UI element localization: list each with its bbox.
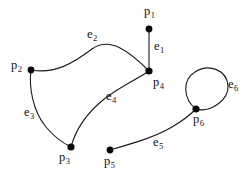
vertex-label-p1-index: 1 <box>151 10 155 20</box>
vertex-label-p2: p2 <box>11 59 22 72</box>
vertex-p4 <box>145 67 152 74</box>
vertex-label-p3: p3 <box>59 151 70 164</box>
edges-layer <box>30 29 228 150</box>
edge-e3 <box>30 70 71 147</box>
edge-label-e6-base: e <box>228 77 234 91</box>
vertex-label-p2-base: p <box>11 58 17 72</box>
vertex-label-p4-index: 4 <box>160 81 164 91</box>
edge-label-e6-index: 6 <box>234 83 238 93</box>
edge-label-e4-index: 4 <box>112 95 116 105</box>
graph-canvas <box>0 0 252 184</box>
edge-e6 <box>186 68 228 110</box>
vertex-label-p4: p4 <box>153 76 164 89</box>
vertex-label-p3-base: p <box>59 150 65 164</box>
vertex-p5 <box>107 147 114 154</box>
vertex-p1 <box>146 26 153 33</box>
edge-label-e2: e2 <box>87 28 97 41</box>
edge-label-e3-base: e <box>24 105 30 119</box>
edge-label-e5-base: e <box>153 135 159 149</box>
vertex-label-p2-index: 2 <box>18 64 22 74</box>
edge-e4 <box>71 71 149 147</box>
graph-diagram: e1e2e3e4e5e6p1p2p3p4p5p6 <box>0 0 252 184</box>
vertex-label-p3-index: 3 <box>66 156 70 166</box>
edge-label-e3-index: 3 <box>30 111 34 121</box>
edge-label-e4: e4 <box>106 90 116 103</box>
vertex-label-p5-base: p <box>104 154 110 168</box>
vertex-p2 <box>28 67 35 74</box>
edge-label-e1-base: e <box>154 39 160 53</box>
edge-label-e6: e6 <box>228 78 238 91</box>
vertex-label-p6: p6 <box>193 113 204 126</box>
vertex-label-p5-index: 5 <box>111 160 115 170</box>
edge-label-e1: e1 <box>154 40 164 53</box>
edge-label-e3: e3 <box>24 106 34 119</box>
edge-label-e2-base: e <box>87 27 93 41</box>
vertex-label-p5: p5 <box>104 155 115 168</box>
vertex-label-p4-base: p <box>153 75 159 89</box>
edge-label-e2-index: 2 <box>93 33 97 43</box>
edge-label-e5: e5 <box>153 136 163 149</box>
edge-label-e4-base: e <box>106 89 112 103</box>
vertex-label-p1: p1 <box>144 5 155 18</box>
edge-e2 <box>31 44 149 71</box>
edge-label-e5-index: 5 <box>159 141 163 151</box>
vertex-label-p6-index: 6 <box>200 118 204 128</box>
vertex-label-p1-base: p <box>144 4 150 18</box>
vertex-label-p6-base: p <box>193 112 199 126</box>
vertex-p3 <box>67 143 74 150</box>
edge-label-e1-index: 1 <box>160 45 164 55</box>
